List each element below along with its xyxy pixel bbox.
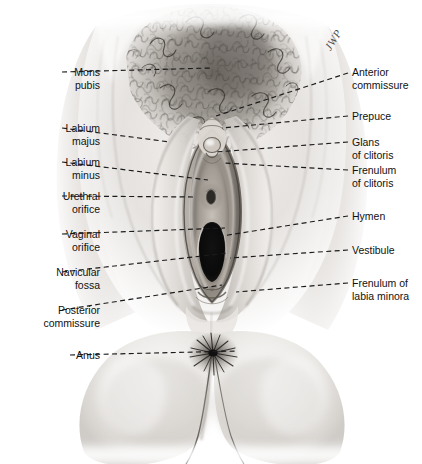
- anatomical-figure: External Genitalia of the Female: [0, 0, 422, 464]
- label-labium-majus-line-2: majus: [66, 135, 100, 148]
- label-mons-pubis: Monspubis: [74, 66, 100, 91]
- label-vaginal-orifice: Vaginalorifice: [66, 228, 100, 253]
- label-vestibule-line-1: Vestibule: [352, 244, 395, 257]
- label-mons-pubis-line-1: Mons: [74, 66, 100, 79]
- label-navicular-fossa-line-2: fossa: [56, 279, 100, 292]
- label-frenulum-of-labia-minora-line-2: labia minora: [352, 290, 409, 303]
- label-urethral-orifice: Urethralorifice: [63, 190, 100, 215]
- label-vaginal-orifice-line-2: orifice: [66, 241, 100, 254]
- label-navicular-fossa: Navicularfossa: [56, 266, 100, 291]
- label-urethral-orifice-line-1: Urethral: [63, 190, 100, 203]
- label-frenulum-of-clitoris-line-2: of clitoris: [352, 177, 396, 190]
- label-glans-of-clitoris-line-2: of clitoris: [352, 149, 393, 162]
- label-glans-of-clitoris-line-1: Glans: [352, 136, 393, 149]
- label-anus: Anus: [76, 349, 100, 362]
- label-navicular-fossa-line-1: Navicular: [56, 266, 100, 279]
- label-anterior-commissure-line-1: Anterior: [352, 66, 409, 79]
- label-labium-minus-line-1: Labium: [66, 156, 100, 169]
- label-glans-of-clitoris: Glansof clitoris: [352, 136, 393, 161]
- label-frenulum-of-labia-minora-line-1: Frenulum of: [352, 277, 409, 290]
- label-labium-minus: Labiumminus: [66, 156, 100, 181]
- label-posterior-commissure-line-2: commissure: [43, 317, 100, 330]
- label-hymen-line-1: Hymen: [352, 210, 385, 223]
- label-posterior-commissure-line-1: Posterior: [43, 304, 100, 317]
- label-frenulum-of-clitoris: Frenulumof clitoris: [352, 164, 396, 189]
- label-labium-majus: Labiummajus: [66, 122, 100, 147]
- label-vaginal-orifice-line-1: Vaginal: [66, 228, 100, 241]
- label-anterior-commissure-line-2: commissure: [352, 79, 409, 92]
- label-frenulum-of-clitoris-line-1: Frenulum: [352, 164, 396, 177]
- label-posterior-commissure: Posteriorcommissure: [43, 304, 100, 329]
- label-urethral-orifice-line-2: orifice: [63, 203, 100, 216]
- label-prepuce-line-1: Prepuce: [352, 110, 391, 123]
- label-labium-majus-line-1: Labium: [66, 122, 100, 135]
- label-prepuce: Prepuce: [352, 110, 391, 123]
- label-anterior-commissure: Anteriorcommissure: [352, 66, 409, 91]
- label-frenulum-of-labia-minora: Frenulum oflabia minora: [352, 277, 409, 302]
- label-anus-line-1: Anus: [76, 349, 100, 362]
- label-hymen: Hymen: [352, 210, 385, 223]
- label-labium-minus-line-2: minus: [66, 169, 100, 182]
- label-mons-pubis-line-2: pubis: [74, 79, 100, 92]
- label-vestibule: Vestibule: [352, 244, 395, 257]
